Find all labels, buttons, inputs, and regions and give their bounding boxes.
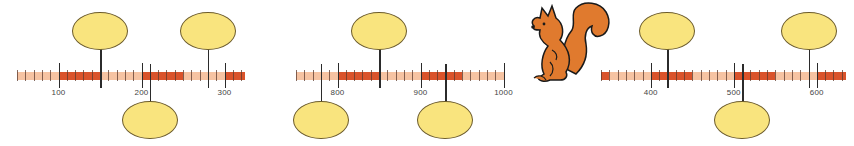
answer-bubble-top[interactable]	[781, 12, 837, 50]
number-line-3: 400500600	[0, 0, 854, 146]
major-tick	[817, 63, 819, 88]
minor-tick	[767, 70, 768, 81]
major-tick	[734, 63, 736, 88]
major-tick	[651, 63, 653, 88]
minor-tick	[643, 70, 644, 81]
answer-bubble-bottom[interactable]	[714, 101, 770, 139]
minor-tick	[833, 70, 834, 81]
minor-tick	[825, 70, 826, 81]
pointer-line	[809, 49, 811, 88]
minor-tick	[775, 70, 776, 81]
pointer-line	[667, 49, 669, 88]
minor-tick	[792, 70, 793, 81]
minor-tick	[726, 70, 727, 81]
minor-tick	[659, 70, 660, 81]
minor-tick	[701, 70, 702, 81]
tick-label: 400	[644, 88, 658, 97]
squirrel-icon	[520, 0, 612, 86]
minor-tick	[750, 70, 751, 81]
minor-tick	[800, 70, 801, 81]
bar-dark-segment	[651, 72, 693, 80]
answer-bubble-top[interactable]	[639, 12, 695, 50]
minor-tick	[692, 70, 693, 81]
minor-tick	[626, 70, 627, 81]
minor-tick	[676, 70, 677, 81]
minor-tick	[842, 70, 843, 81]
minor-tick	[618, 70, 619, 81]
tick-label: 500	[727, 88, 741, 97]
bar-dark-segment	[734, 72, 776, 80]
minor-tick	[717, 70, 718, 81]
minor-tick	[709, 70, 710, 81]
minor-tick	[784, 70, 785, 81]
minor-tick	[759, 70, 760, 81]
tick-label: 600	[810, 88, 824, 97]
minor-tick	[684, 70, 685, 81]
pointer-line	[742, 64, 744, 102]
minor-tick	[634, 70, 635, 81]
